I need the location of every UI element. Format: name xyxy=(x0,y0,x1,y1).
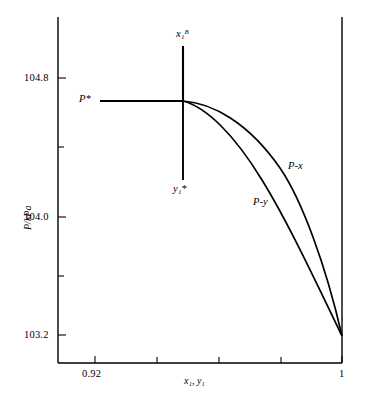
x-tick-label-0-92: 0.92 xyxy=(82,368,101,379)
pstar-label: P* xyxy=(79,93,91,104)
p-y-curve xyxy=(183,101,342,336)
p-y-curve-label: P-y xyxy=(253,196,268,207)
x-tick-label-1: 1 xyxy=(339,368,344,379)
p-x-curve-label: P-x xyxy=(288,160,303,171)
y-axis-ticks xyxy=(58,78,66,335)
x-axis-title: x₁, y₁ xyxy=(184,375,205,386)
y-tick-label-104-8: 104.8 xyxy=(24,72,49,83)
y-axis-title: P/kPa xyxy=(22,206,33,230)
chart-canvas xyxy=(0,0,375,408)
axis-spines xyxy=(58,17,342,363)
p-x-curve xyxy=(183,101,342,336)
y1star-label: y₁* xyxy=(173,183,187,194)
pxy-phase-diagram-figure: 104.8 104.0 103.2 0.92 1 P/kPa x₁, y₁ P-… xyxy=(0,0,375,408)
x1b-label: x₁ᴮ xyxy=(176,28,189,39)
x-axis-ticks xyxy=(95,356,342,363)
y-tick-label-103-2: 103.2 xyxy=(24,329,49,340)
